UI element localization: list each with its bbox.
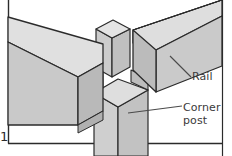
label-rail: Rail [192, 70, 213, 83]
label-corner-post-line1: Corner [183, 101, 221, 114]
label-corner-post: Cornerpost [183, 101, 221, 127]
woodworking-joint-figure: Rail Cornerpost 1 [0, 0, 232, 156]
left-rail-part [8, 17, 103, 133]
label-corner-post-line2: post [183, 114, 207, 127]
figure-number: 1 [0, 130, 8, 143]
